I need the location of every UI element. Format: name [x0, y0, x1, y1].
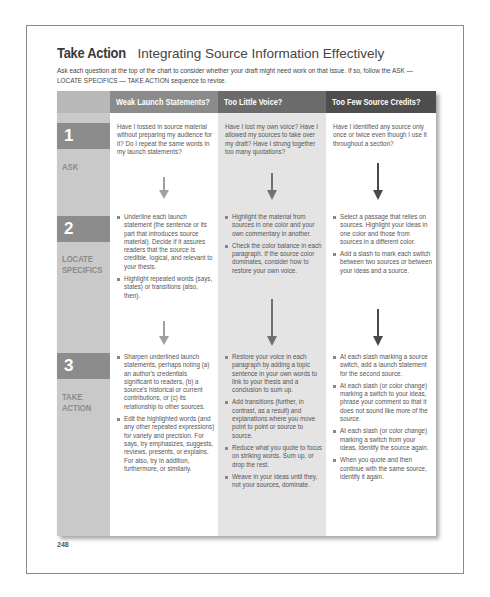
locate-list: Highlight the material from sources in o…	[225, 213, 323, 279]
step-column-header	[57, 91, 110, 113]
title-subtitle: Integrating Source Information Effective…	[138, 46, 385, 61]
step-label-take-action: TAKE ACTION	[62, 392, 99, 414]
take-action-chart: 1 ASK 2 LOCATE SPECIFICS 3 TAKE ACTION W…	[57, 91, 436, 536]
list-item: When you quote and then continue with th…	[333, 456, 433, 481]
column-too-little-voice: Too Little Voice? Have I lost my own voi…	[218, 91, 326, 536]
column-weak-launch-statements: Weak Launch Statements? Have I tossed in…	[110, 91, 218, 536]
action-list: At each slash marking a source switch, a…	[333, 353, 433, 485]
action-list: Sharpen underlined launch statements, pe…	[117, 353, 215, 477]
list-item: At each slash marking a source switch, a…	[333, 353, 433, 378]
column-too-few-source-credits: Too Few Source Credits? Have I identifie…	[326, 91, 436, 536]
step-number-2: 2	[57, 216, 110, 242]
page-title: Take Action Integrating Source Informati…	[57, 44, 384, 62]
list-item: Add transitions (further, in contrast, a…	[225, 398, 323, 439]
list-item: Weave in your ideas until they, not your…	[225, 473, 323, 490]
step-number-3: 3	[57, 353, 110, 379]
list-item: Check the color balance in each paragrap…	[225, 242, 323, 275]
step-column: 1 ASK 2 LOCATE SPECIFICS 3 TAKE ACTION	[57, 91, 110, 536]
column-heading: Too Few Source Credits?	[326, 91, 436, 113]
list-item: Edit the highlighted words (and any othe…	[117, 415, 215, 473]
list-item: Add a slash to mark each switch between …	[333, 250, 433, 275]
ask-question: Have I identified any source only once o…	[333, 123, 433, 148]
step-number-1: 1	[57, 123, 110, 149]
list-item: Underline each launch statement (the sen…	[117, 213, 215, 271]
column-heading: Too Little Voice?	[218, 91, 326, 113]
list-item: Select a passage that relies on sources.…	[333, 213, 433, 246]
list-item: Highlight the material from sources in o…	[225, 213, 323, 238]
locate-list: Select a passage that relies on sources.…	[333, 213, 433, 279]
list-item: At each slash (or color change) marking …	[333, 382, 433, 423]
step-label-locate-specifics: LOCATE SPECIFICS	[62, 254, 105, 276]
list-item: At each slash (or color change) marking …	[333, 427, 433, 452]
action-list: Restore your voice in each paragraph by …	[225, 353, 323, 493]
list-item: Restore your voice in each paragraph by …	[225, 353, 323, 394]
step-label-ask: ASK	[62, 162, 78, 173]
list-item: Highlight repeated words (says, states) …	[117, 275, 215, 300]
intro-text: Ask each question at the top of the char…	[57, 66, 417, 86]
page-number: 248	[57, 541, 69, 548]
ask-question: Have I tossed in source material without…	[117, 123, 213, 156]
ask-question: Have I lost my own voice? Have I allowed…	[225, 123, 321, 156]
title-bold: Take Action	[57, 44, 126, 61]
list-item: Sharpen underlined launch statements, pe…	[117, 353, 215, 411]
column-heading: Weak Launch Statements?	[110, 91, 218, 113]
locate-list: Underline each launch statement (the sen…	[117, 213, 215, 304]
list-item: Reduce what you quote to focus on striki…	[225, 444, 323, 469]
